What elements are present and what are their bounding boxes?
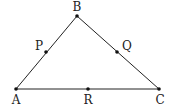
label-p: P bbox=[35, 39, 43, 53]
label-a: A bbox=[11, 93, 21, 107]
label-r: R bbox=[83, 93, 93, 107]
point-q-dot bbox=[115, 50, 119, 54]
vertex-c-dot bbox=[157, 87, 161, 91]
diagram-svg: B A C P Q R bbox=[0, 0, 171, 109]
vertex-b-dot bbox=[75, 14, 79, 18]
label-b: B bbox=[73, 0, 82, 14]
label-c: C bbox=[155, 93, 164, 107]
triangle-diagram: B A C P Q R bbox=[0, 0, 171, 109]
label-q: Q bbox=[122, 39, 132, 53]
vertex-a-dot bbox=[14, 87, 18, 91]
point-p-dot bbox=[44, 50, 48, 54]
point-r-dot bbox=[86, 87, 90, 91]
